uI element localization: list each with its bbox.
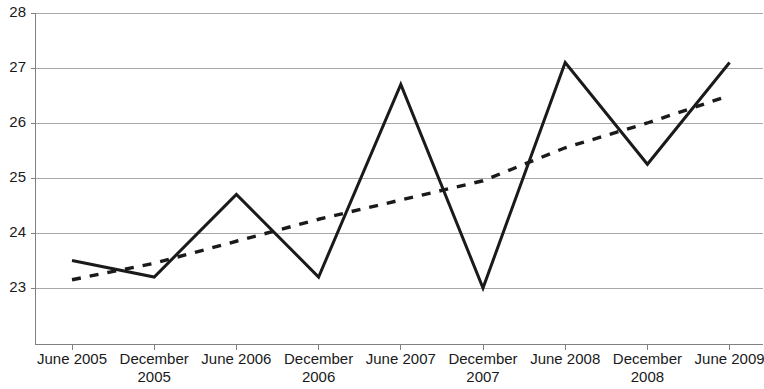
x-tick-label: June 2008 [530, 350, 600, 367]
x-tick-label: December2008 [613, 350, 682, 385]
y-tick-label: 28 [9, 3, 26, 20]
x-tick-label: June 2006 [201, 350, 271, 367]
x-tick-label: June 2007 [366, 350, 436, 367]
y-axis-tick-labels: 232425262728 [9, 3, 26, 295]
gridlines [36, 14, 763, 289]
y-tick-label: 25 [9, 168, 26, 185]
data-line-series [72, 63, 730, 289]
y-tick-label: 27 [9, 58, 26, 75]
chart-container: 232425262728 June 2005December2005June 2… [0, 0, 764, 389]
x-tick-label: December2006 [284, 350, 353, 385]
y-tick-label: 24 [9, 223, 26, 240]
x-axis-tick-labels: June 2005December2005June 2006December20… [37, 350, 764, 385]
y-tick-label: 26 [9, 113, 26, 130]
x-tick-label: June 2005 [37, 350, 107, 367]
x-tick-label: December2005 [120, 350, 189, 385]
line-chart: 232425262728 June 2005December2005June 2… [0, 0, 764, 389]
x-axis-tick-marks [72, 345, 730, 350]
x-tick-label: December2007 [448, 350, 517, 385]
y-tick-label: 23 [9, 278, 26, 295]
x-tick-label: June 2009 [695, 350, 764, 367]
